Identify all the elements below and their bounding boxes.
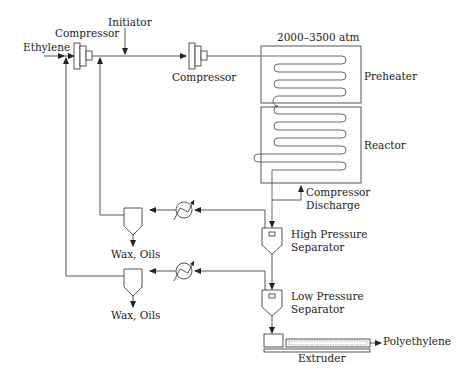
label-primary-compressor: Compressor [55,27,120,39]
hps-overhead-line [195,210,265,228]
compressor-discharge-line [272,186,301,200]
label-initiator: Initiator [108,16,153,28]
label-wax-oils-lower: Wax, Oils [111,309,160,321]
label-reactor: Reactor [364,139,407,151]
secondary-compressor-icon [189,43,207,69]
label-preheater: Preheater [364,70,418,82]
label-compressor-discharge-line2: Discharge [306,199,360,211]
high-pressure-recycle-line [100,58,124,215]
label-pressure: 2000–3500 atm [277,31,360,43]
upper-cooler-icon [174,200,194,220]
process-flow-diagram: Ethylene Compressor Initiator Compressor… [0,0,459,384]
label-compressor-discharge-line1: Compressor [306,186,371,198]
label-secondary-compressor: Compressor [172,71,237,83]
lower-wax-separator-icon [124,269,142,296]
lower-cooler-icon [174,261,194,281]
label-polyethylene: Polyethylene [383,335,451,347]
high-pressure-separator-icon [262,228,282,254]
label-wax-oils-upper: Wax, Oils [111,248,160,260]
extruder-icon [264,334,370,352]
label-high-pressure-separator-line2: Separator [291,241,345,253]
label-ethylene: Ethylene [23,41,70,53]
lps-overhead-line [195,271,265,290]
label-low-pressure-separator-line1: Low Pressure [291,290,364,302]
label-high-pressure-separator-line1: High Pressure [291,228,367,240]
label-low-pressure-separator-line2: Separator [291,303,345,315]
primary-compressor-icon [74,43,92,69]
upper-wax-separator-icon [124,208,142,235]
low-pressure-separator-icon [262,290,282,316]
label-extruder: Extruder [298,352,347,364]
